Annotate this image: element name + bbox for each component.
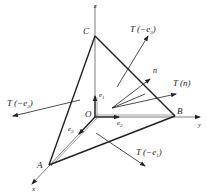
point-B-label: B	[177, 106, 183, 116]
x-axis-label: x	[31, 185, 36, 192]
point-A-label: A	[36, 160, 43, 170]
point-C-label: C	[83, 26, 90, 36]
T-neg-e1-label: T (−e1)	[136, 147, 162, 158]
T-n-arrow-2	[112, 94, 145, 108]
normal-n-label: n	[153, 66, 157, 75]
T-neg-e2-label: T (−e2)	[7, 98, 33, 109]
y-axis-label: y	[197, 121, 202, 129]
T-neg-e3-label: T (−e3)	[130, 24, 156, 35]
e1-label: e1	[99, 91, 105, 100]
tetrahedron-diagram: z y x C B A O e1 e2 e3 n T (−e3) T (n) T…	[0, 0, 207, 192]
edge-CB	[95, 36, 175, 116]
T-neg-e3-arrow	[117, 36, 148, 87]
origin-O-label: O	[85, 109, 92, 119]
z-axis-label: z	[93, 2, 97, 10]
e3-label: e3	[68, 125, 74, 134]
T-n-label: T (n)	[173, 78, 191, 88]
e3-vector	[79, 117, 95, 134]
edge-CA	[49, 36, 95, 165]
e2-label: e2	[117, 119, 123, 128]
